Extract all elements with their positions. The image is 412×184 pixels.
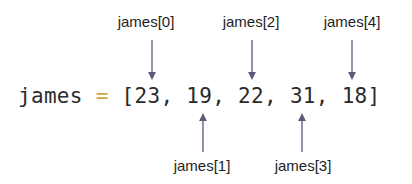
list-index-diagram: james[0] james[2] james[4] james = [23, … (0, 0, 412, 184)
separator: , (160, 84, 186, 108)
list-value-0: 23 (135, 84, 161, 108)
label-index-1: james[1] (174, 157, 231, 175)
variable-name: james (18, 84, 83, 108)
close-bracket: ] (368, 84, 381, 108)
open-bracket: [ (122, 84, 135, 108)
separator: , (212, 84, 238, 108)
separator: , (316, 84, 342, 108)
separator: , (264, 84, 290, 108)
list-value-1: 19 (186, 84, 212, 108)
code-line: james = [23, 19, 22, 31, 18] (18, 84, 381, 108)
assignment-operator: = (96, 84, 109, 108)
label-index-3: james[3] (275, 157, 332, 175)
list-value-2: 22 (238, 84, 264, 108)
list-value-4: 18 (342, 84, 368, 108)
list-value-3: 31 (290, 84, 316, 108)
